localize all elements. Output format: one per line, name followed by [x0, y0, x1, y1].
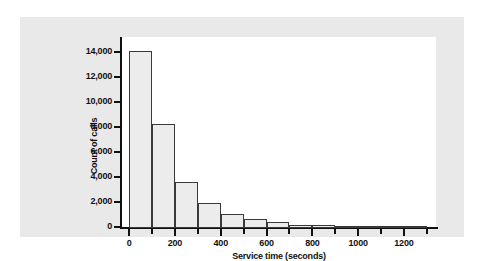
x-axis-tick-label: 1200 [384, 238, 424, 248]
x-axis-tick-label: 0 [109, 238, 149, 248]
x-axis-minor-tick [426, 229, 428, 234]
x-axis-minor-tick [380, 229, 382, 234]
histogram-bar [244, 219, 267, 228]
x-axis-tick [403, 229, 405, 236]
x-axis-tick-label: 800 [292, 238, 332, 248]
histogram-bar [221, 214, 244, 228]
x-axis-tick-label: 1000 [338, 238, 378, 248]
x-axis-tick [357, 229, 359, 236]
chart-panel: 02,0004,0006,0008,00010,00012,00014,000 … [20, 17, 464, 237]
x-axis-minor-tick [243, 229, 245, 234]
x-axis-tick [311, 229, 313, 236]
y-axis-title: Count of calls [89, 91, 99, 201]
histogram-bar [335, 226, 358, 228]
x-axis-tick-label: 400 [201, 238, 241, 248]
x-axis-tick [174, 229, 176, 236]
histogram-bar [404, 226, 427, 228]
histogram-bar [267, 222, 290, 228]
x-axis-tick [128, 229, 130, 236]
histogram-bar [198, 203, 221, 228]
histogram-bar [129, 51, 152, 229]
histogram-bars [120, 37, 438, 228]
x-axis-title: Service time (seconds) [120, 251, 438, 261]
x-axis-tick [266, 229, 268, 236]
histogram-bar [358, 226, 381, 228]
x-axis-tick-label: 600 [247, 238, 287, 248]
histogram-bar [381, 226, 404, 228]
histogram-bar [152, 124, 175, 228]
histogram-bar [312, 225, 335, 228]
x-axis-minor-tick [288, 229, 290, 234]
x-axis-minor-tick [151, 229, 153, 234]
x-axis-minor-tick [197, 229, 199, 234]
y-axis-title-wrapper: Count of calls [76, 37, 90, 227]
histogram-bar [175, 182, 198, 228]
x-axis-minor-tick [334, 229, 336, 234]
x-axis-tick [220, 229, 222, 236]
x-axis-tick-label: 200 [155, 238, 195, 248]
histogram-bar [289, 225, 312, 229]
